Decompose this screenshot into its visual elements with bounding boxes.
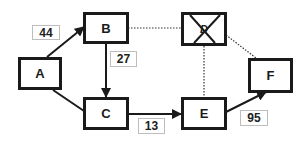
node-d-label: D — [200, 23, 208, 35]
node-e-label: E — [200, 106, 209, 121]
node-e: E — [181, 97, 227, 130]
weight-label-bc: 27 — [110, 51, 137, 67]
node-f: F — [248, 58, 293, 93]
edge-e-f — [226, 92, 266, 112]
node-c-label: C — [101, 106, 110, 121]
node-d: D — [181, 12, 227, 46]
edge-a-c — [53, 90, 84, 111]
node-a: A — [18, 57, 62, 90]
node-a-label: A — [35, 66, 44, 81]
weight-label-ce: 13 — [138, 118, 165, 134]
node-f-label: F — [267, 68, 275, 83]
node-c: C — [83, 97, 129, 130]
weight-label-ef: 95 — [240, 110, 268, 126]
edge-d-f — [226, 35, 256, 58]
node-b-label: B — [101, 21, 110, 36]
node-b: B — [83, 12, 129, 44]
weight-label-ab: 44 — [32, 25, 60, 40]
